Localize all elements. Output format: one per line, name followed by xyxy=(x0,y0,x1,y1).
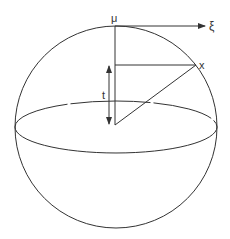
label-x: x xyxy=(199,59,205,71)
sphere-diagram: μ ξ x t xyxy=(0,0,230,239)
equator-back xyxy=(15,101,217,127)
radius-to-x xyxy=(115,65,196,125)
label-mu: μ xyxy=(111,12,117,24)
label-t: t xyxy=(102,89,105,101)
equator-front xyxy=(15,127,217,153)
label-xi: ξ xyxy=(209,19,215,33)
sphere-outline xyxy=(15,26,217,228)
